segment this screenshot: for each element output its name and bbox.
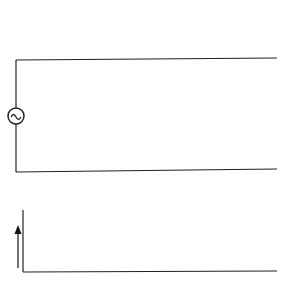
axis-line <box>16 58 277 60</box>
diagram-a <box>8 58 277 172</box>
diagram-canvas <box>0 0 293 304</box>
arrow-up-icon <box>15 225 22 234</box>
diagram-b <box>15 210 278 272</box>
x-axis <box>23 271 277 272</box>
return-line <box>16 169 277 172</box>
